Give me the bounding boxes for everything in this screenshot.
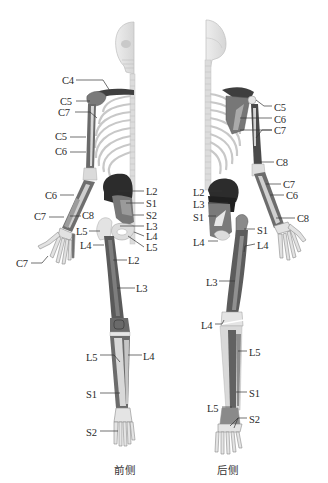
back-lower-leg xyxy=(220,326,242,410)
front-segment-label: S2 xyxy=(86,427,97,438)
skeleton-illustration xyxy=(0,0,328,483)
front-forearm xyxy=(62,180,95,232)
back-pelvis xyxy=(208,178,239,240)
back-forearm xyxy=(254,172,284,228)
front-segment-label: L4 xyxy=(146,231,157,242)
front-shoulder-deltoid xyxy=(87,92,106,107)
back-thigh xyxy=(226,230,248,314)
back-segment-label: L4 xyxy=(201,320,212,331)
back-segment-label: C7 xyxy=(283,179,295,190)
front-segment-label: S2 xyxy=(146,210,157,221)
back-segment-label: L3 xyxy=(193,199,204,210)
front-segment-label: C6 xyxy=(55,146,67,157)
back-segment-label: C8 xyxy=(276,157,288,168)
back-segment-label: S2 xyxy=(249,414,260,425)
back-segment-label: S1 xyxy=(257,225,268,236)
back-segment-label: C5 xyxy=(274,102,286,113)
front-segment-label: L4 xyxy=(143,351,154,362)
back-segment-label: L4 xyxy=(257,240,268,251)
front-segment-label: C7 xyxy=(58,107,70,118)
back-segment-label: L3 xyxy=(206,277,217,288)
back-knee xyxy=(221,312,244,326)
front-lower-leg xyxy=(110,336,130,408)
back-segment-label: S1 xyxy=(249,388,260,399)
caption-back-view: 后侧 xyxy=(217,462,239,477)
front-skull xyxy=(116,22,134,74)
front-segment-label: L5 xyxy=(86,352,97,363)
back-scapula xyxy=(222,87,256,134)
front-segment-label: L4 xyxy=(80,240,91,251)
front-segment-label: C6 xyxy=(45,190,57,201)
back-upper-arm xyxy=(251,104,265,176)
back-foot xyxy=(215,408,242,454)
front-ribcage xyxy=(95,96,131,176)
front-segment-label: C5 xyxy=(60,96,72,107)
dermatome-myotome-diagram: C4C5C7C5C6C6C7C8C7L2S1S2L3L4L5L5L4L2L3L5… xyxy=(0,0,328,483)
caption-front-view: 前侧 xyxy=(114,462,136,477)
front-segment-label: C7 xyxy=(16,258,28,269)
front-segment-label: L3 xyxy=(136,283,147,294)
front-hand xyxy=(38,228,75,264)
front-segment-label: C4 xyxy=(62,75,74,86)
back-spine xyxy=(205,60,211,190)
front-segment-label: S1 xyxy=(146,198,157,209)
back-segment-label: L2 xyxy=(193,187,204,198)
front-segment-label: L2 xyxy=(146,186,157,197)
back-segment-label: L5 xyxy=(207,403,218,414)
back-segment-label: C8 xyxy=(297,213,309,224)
back-segment-label: C6 xyxy=(274,114,286,125)
back-segment-label: C6 xyxy=(286,190,298,201)
back-hand xyxy=(274,222,306,260)
front-segment-label: S1 xyxy=(86,389,97,400)
front-foot xyxy=(114,408,135,446)
front-segment-label: L5 xyxy=(76,226,87,237)
front-segment-label: C7 xyxy=(34,211,46,222)
back-segment-label: S1 xyxy=(193,212,204,223)
front-segment-label: C5 xyxy=(55,131,67,142)
back-segment-label: L5 xyxy=(249,347,260,358)
front-knee xyxy=(110,318,130,336)
front-segment-label: L2 xyxy=(128,255,139,266)
front-thigh xyxy=(104,236,124,322)
back-segment-label: C7 xyxy=(274,125,286,136)
back-segment-label: L4 xyxy=(193,237,204,248)
front-segment-label: C8 xyxy=(82,210,94,221)
front-segment-label: L5 xyxy=(146,242,157,253)
